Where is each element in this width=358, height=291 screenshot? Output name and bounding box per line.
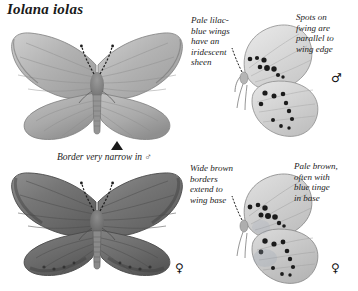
annotation-pale-brown-base: Pale brown, often with blue tinge in bas… (294, 161, 356, 203)
annotation-pale-lilac-blue: Pale lilac- blue wings have an iridescen… (191, 15, 253, 68)
triangle-pointer-icon (111, 141, 123, 150)
specimen-female-upperside (8, 168, 186, 280)
annotation-wide-brown-borders: Wide brown borders extend to wing base (190, 163, 252, 205)
caption-border-narrow: Border very narrow in ♂ (57, 152, 152, 162)
page-title: Iolana iolas (7, 1, 83, 18)
specimen-male-upperside (8, 27, 186, 145)
plate-page: Iolana iolas (0, 0, 358, 291)
female-symbol-icon-left: ♀ (175, 262, 184, 274)
female-symbol-icon-right: ♀ (331, 262, 340, 274)
annotation-spots-parallel: Spots on fwing are parallel to wing edge (296, 12, 356, 54)
male-symbol-icon: ♂ (331, 72, 342, 84)
